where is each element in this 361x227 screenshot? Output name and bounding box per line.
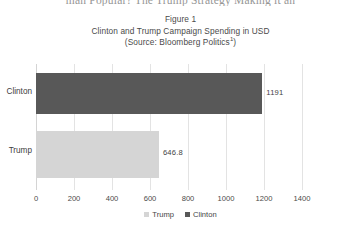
bar-value-clinton: 1191	[266, 88, 283, 97]
figure-source: (Source: Bloomberg Politics1)	[0, 37, 361, 49]
category-label-trump: Trump	[9, 146, 32, 155]
x-tick-label-800: 800	[182, 194, 195, 203]
figure-title: Clinton and Trump Campaign Spending in U…	[0, 26, 361, 38]
category-axis-labels: Clinton Trump	[0, 64, 32, 190]
x-tick-label-400: 400	[106, 194, 119, 203]
bar-trump[interactable]	[36, 131, 159, 178]
x-tick-label-1400: 1400	[294, 194, 311, 203]
figure-number: Figure 1	[0, 14, 361, 26]
legend-swatch-trump	[144, 212, 149, 217]
x-tick-label-0: 0	[34, 194, 38, 203]
x-tick-label-1200: 1200	[256, 194, 273, 203]
legend-label-clinton: Clinton	[193, 210, 217, 219]
x-tick-label-600: 600	[144, 194, 157, 203]
figure-source-prefix: (Source: Bloomberg Politics	[125, 37, 230, 47]
x-axis-tick-labels: 0200400600800100012001400	[36, 194, 302, 208]
gridline-1400	[302, 64, 303, 190]
figure-caption: Figure 1 Clinton and Trump Campaign Spen…	[0, 14, 361, 49]
bar-value-trump: 646.8	[163, 148, 183, 157]
x-tick-label-200: 200	[68, 194, 81, 203]
legend-item-trump[interactable]: Trump	[144, 210, 174, 219]
plot-area: 1191 646.8	[36, 64, 302, 190]
chart-legend: Trump Clinton	[0, 210, 361, 219]
bar-chart: Clinton Trump 1191 646.8 020040060080010…	[0, 52, 361, 227]
document-clipped-text: man Popular? The Trump Strategy Making i…	[0, 0, 361, 6]
figure-source-suffix: )	[233, 37, 236, 47]
legend-swatch-clinton	[185, 212, 190, 217]
legend-item-clinton[interactable]: Clinton	[185, 210, 217, 219]
category-label-clinton: Clinton	[7, 87, 33, 96]
legend-label-trump: Trump	[152, 210, 174, 219]
bar-clinton[interactable]	[36, 73, 262, 114]
gridline-1200	[264, 64, 265, 190]
x-tick-label-1000: 1000	[218, 194, 235, 203]
